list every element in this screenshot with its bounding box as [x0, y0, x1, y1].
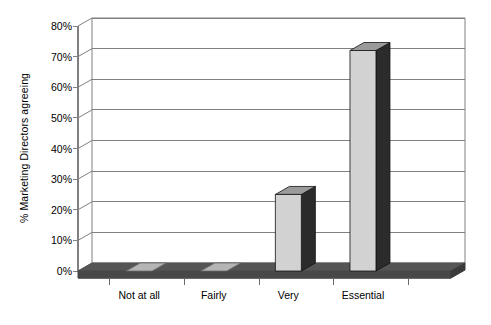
plot-area: [0, 0, 491, 325]
bar-chart: % Marketing Directors agreeing 0%10%20%3…: [0, 0, 491, 325]
